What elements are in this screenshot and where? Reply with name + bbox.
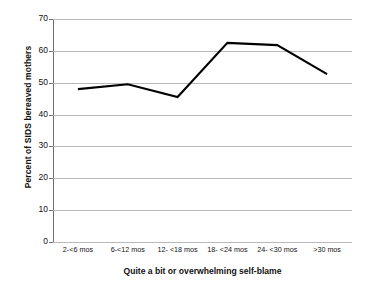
x-axis-title: Quite a bit or overwhelming self-blame	[53, 266, 352, 276]
plot-area	[53, 19, 352, 242]
gridline	[53, 242, 352, 243]
line-chart: Percent of SIDS bereaved mothers 0102030…	[0, 0, 365, 289]
x-axis-tick-labels: 2-<6 mos6-<12 mos12- <18 mos18- <24 mos2…	[53, 246, 352, 260]
data-series-line	[53, 19, 352, 242]
x-axis-tick-label: >30 mos	[294, 246, 360, 253]
